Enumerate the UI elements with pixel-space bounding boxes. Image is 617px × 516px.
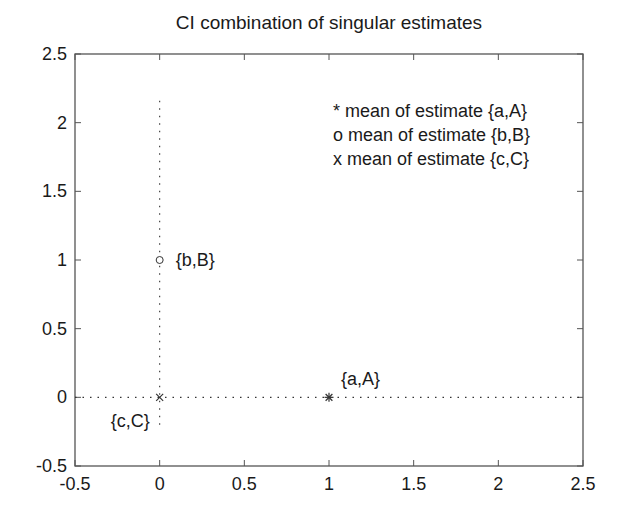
- point-label: {c,C}: [111, 411, 150, 431]
- x-tick-label: 2.5: [570, 474, 595, 494]
- legend: * mean of estimate {a,A} o mean of estim…: [333, 99, 530, 171]
- legend-entry-b: o mean of estimate {b,B}: [333, 123, 530, 147]
- x-tick-label: 0: [155, 474, 165, 494]
- x-tick-label: -0.5: [59, 474, 90, 494]
- x-tick-label: 0.5: [232, 474, 257, 494]
- y-tick-label: 0: [57, 387, 67, 407]
- y-tick-label: 2.5: [42, 44, 67, 64]
- y-tick-label: 2: [57, 113, 67, 133]
- data-points: {a,A}{b,B}{c,C}: [111, 250, 380, 431]
- x-tick-label: 1: [324, 474, 334, 494]
- chart: CI combination of singular estimates -0.…: [0, 0, 617, 516]
- y-tick-label: 1: [57, 250, 67, 270]
- plot-area: -0.500.511.522.5-0.500.511.522.5 {a,A}{b…: [0, 0, 617, 516]
- data-point: {b,B}: [156, 250, 215, 270]
- legend-entry-a: * mean of estimate {a,A}: [333, 99, 530, 123]
- legend-entry-c: x mean of estimate {c,C}: [333, 147, 530, 171]
- y-tick-label: -0.5: [36, 456, 67, 476]
- y-tick-label: 0.5: [42, 319, 67, 339]
- data-point: {c,C}: [111, 394, 164, 432]
- data-point: {a,A}: [325, 369, 381, 402]
- point-label: {a,A}: [341, 369, 380, 389]
- x-tick-label: 2: [493, 474, 503, 494]
- y-tick-label: 1.5: [42, 181, 67, 201]
- x-tick-label: 1.5: [401, 474, 426, 494]
- point-label: {b,B}: [176, 250, 215, 270]
- circle-marker-icon: [156, 257, 163, 264]
